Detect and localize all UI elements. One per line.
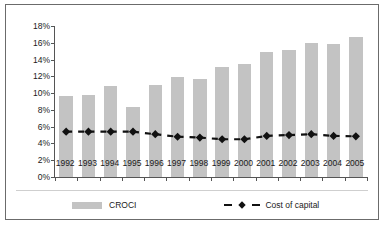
x-axis-label: 2003: [301, 158, 320, 168]
dashed-diamond-line-icon: [224, 200, 260, 210]
line-series-cost-of-capital: [55, 26, 367, 177]
x-axis-tick-mark: [345, 177, 346, 181]
y-axis-tick-mark: [51, 26, 55, 27]
x-axis-label: 2004: [323, 158, 342, 168]
x-axis-label: 1994: [100, 158, 119, 168]
y-axis-tick-mark: [51, 143, 55, 144]
y-axis-tick-mark: [51, 160, 55, 161]
x-axis-label: 1996: [145, 158, 164, 168]
legend-item-cost-of-capital: Cost of capital: [224, 200, 319, 210]
x-axis-tick-mark: [211, 177, 212, 181]
x-axis-label: 2005: [345, 158, 364, 168]
x-axis-tick-mark: [233, 177, 234, 181]
x-axis-tick-mark: [122, 177, 123, 181]
x-axis-label: 1997: [167, 158, 186, 168]
x-axis-label: 1992: [56, 158, 75, 168]
y-axis-tick-mark: [51, 127, 55, 128]
legend-label-cost-of-capital: Cost of capital: [265, 200, 319, 210]
x-axis-label: 2002: [279, 158, 298, 168]
y-axis-tick-mark: [51, 110, 55, 111]
legend-divider: [16, 190, 368, 191]
x-axis-label: 1998: [189, 158, 208, 168]
x-axis-tick-mark: [278, 177, 279, 181]
bar: [349, 37, 362, 177]
y-axis-tick-mark: [51, 93, 55, 94]
x-axis-label: 2001: [256, 158, 275, 168]
legend-label-croci: CROCI: [109, 200, 136, 210]
plot-area: 0%2%4%6%8%10%12%14%16%18%: [54, 26, 367, 178]
x-axis-tick-mark: [166, 177, 167, 181]
x-axis-tick-mark: [367, 177, 368, 181]
x-axis-label: 2000: [234, 158, 253, 168]
chart-legend: CROCI Cost of capital: [54, 196, 366, 214]
x-axis-tick-mark: [189, 177, 190, 181]
x-axis-tick-mark: [55, 177, 56, 181]
x-axis-tick-mark: [100, 177, 101, 181]
x-axis-label: 1995: [123, 158, 142, 168]
y-axis-tick-mark: [51, 76, 55, 77]
x-axis-tick-mark: [322, 177, 323, 181]
x-axis-label: 1999: [212, 158, 231, 168]
bar: [327, 44, 340, 177]
chart-frame: 0%2%4%6%8%10%12%14%16%18% 19921993199419…: [5, 4, 379, 220]
legend-item-croci: CROCI: [72, 200, 136, 210]
x-axis-tick-mark: [256, 177, 257, 181]
x-axis-label: 1993: [78, 158, 97, 168]
y-axis-tick-mark: [51, 60, 55, 61]
x-axis-tick-mark: [300, 177, 301, 181]
bar-swatch-icon: [72, 202, 102, 209]
bar: [305, 43, 318, 177]
x-axis-tick-mark: [77, 177, 78, 181]
y-axis-tick-mark: [51, 43, 55, 44]
x-axis-tick-mark: [144, 177, 145, 181]
